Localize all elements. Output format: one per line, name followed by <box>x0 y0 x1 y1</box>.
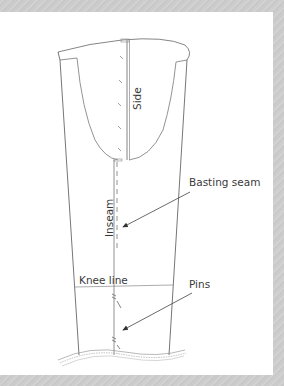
pin-marks <box>112 294 121 349</box>
label-pins: Pins <box>189 278 210 290</box>
label-basting-seam: Basting seam <box>189 176 260 188</box>
leg-right-outline <box>169 60 187 355</box>
hem-wave-line-3 <box>62 356 184 366</box>
label-inseam: Inseam <box>103 199 115 237</box>
label-knee-line: Knee line <box>79 274 128 286</box>
crotch-curve-left <box>60 58 118 160</box>
label-side: Side <box>131 87 143 110</box>
trouser-leg-diagram: Side Inseam Basting seam Knee line Pins <box>0 0 284 386</box>
basting-seam-arrow <box>123 192 190 227</box>
pins-arrow <box>123 293 192 330</box>
leg-left-outline <box>58 52 79 355</box>
side-seam-tick-marks <box>118 56 123 151</box>
hem-wave-line <box>58 350 185 360</box>
